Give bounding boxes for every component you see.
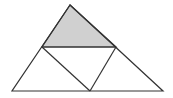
shaded-top-triangle (42, 5, 116, 47)
triangle-diagram (0, 0, 173, 98)
outer-triangle (12, 5, 163, 91)
right-diagonal (90, 47, 116, 91)
left-diagonal (42, 47, 90, 91)
